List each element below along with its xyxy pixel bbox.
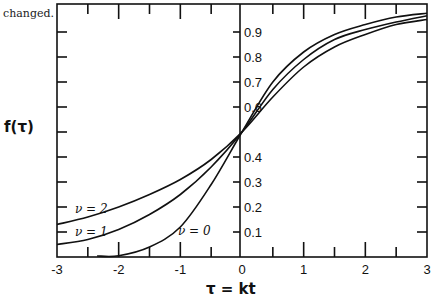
x-tick-labels: -3-2-10123 — [51, 262, 430, 277]
x-axis-label: τ = kt — [206, 280, 256, 298]
x-tick-label: 0 — [238, 262, 245, 277]
curve-ν1 — [57, 16, 427, 245]
y-tick-label: 0.7 — [244, 75, 262, 90]
curve-ν2 — [57, 20, 427, 225]
y-tick-label: 0.9 — [244, 25, 262, 40]
y-tick-labels: 0.10.20.30.40.60.70.80.9 — [244, 25, 262, 240]
y-tick-label: 0.2 — [244, 200, 262, 215]
x-tick-label: -1 — [175, 262, 187, 277]
sigmoid-chart: -3-2-10123 0.10.20.30.40.60.70.80.9 ν = … — [0, 0, 432, 301]
x-tick-label: 2 — [362, 262, 369, 277]
y-tick-label: 0.1 — [244, 225, 262, 240]
y-tick-label: 0.4 — [244, 150, 262, 165]
x-tick-label: 1 — [300, 262, 307, 277]
curve-label: ν = 2 — [75, 202, 108, 216]
curve-label: ν = 1 — [75, 225, 108, 239]
y-tick-label: 0.8 — [244, 50, 262, 65]
x-tick-label: -2 — [113, 262, 125, 277]
curve-label: ν = 0 — [178, 224, 211, 238]
x-tick-label: 3 — [423, 262, 430, 277]
x-tick-label: -3 — [51, 262, 63, 277]
curves — [57, 13, 427, 256]
curve-labels: ν = 2ν = 1ν = 0 — [75, 202, 211, 239]
y-axis-label: f(τ) — [4, 118, 34, 136]
y-tick-label: 0.3 — [244, 175, 262, 190]
